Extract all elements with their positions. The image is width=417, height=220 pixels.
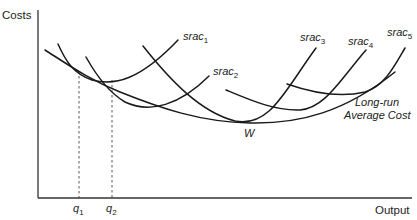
cost-curves-diagram: Costs Output q1 q2 srac1 srac2 srac3 sra… — [0, 0, 417, 220]
srac4-curve — [226, 50, 366, 110]
y-axis-label: Costs — [2, 9, 32, 21]
lrac-label-line2: Average Cost — [343, 109, 411, 121]
srac4-label: srac4 — [348, 35, 374, 50]
srac2-label: srac2 — [213, 65, 239, 80]
srac3-label: srac3 — [300, 31, 326, 46]
srac5-label: srac5 — [387, 26, 413, 41]
srac1-curve — [58, 40, 178, 82]
lrac-curve — [45, 50, 395, 123]
srac1-label: srac1 — [183, 30, 209, 45]
lrac-label-line1: Long-run — [355, 96, 399, 108]
q2-label: q2 — [106, 202, 117, 217]
srac5-curve — [287, 48, 405, 94]
x-axis-label: Output — [375, 204, 410, 216]
min-point-w-label: W — [244, 127, 256, 139]
q1-label: q1 — [73, 202, 84, 217]
